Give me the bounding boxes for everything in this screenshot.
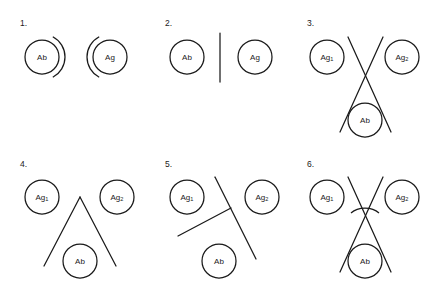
node-sublabel-ag1: 1	[190, 196, 193, 202]
panel-number-label: 2.	[165, 18, 172, 28]
node-ag[interactable]: Ag	[238, 40, 272, 74]
node-label-ab: Ab	[182, 53, 192, 62]
node-label-ab: Ab	[360, 257, 370, 266]
node-ag[interactable]: Ag	[93, 40, 127, 74]
node-ag2[interactable]: Ag2	[385, 40, 419, 74]
bridge-arc	[351, 208, 379, 213]
panel-1: 1.AbAg	[20, 18, 127, 77]
node-label-ag: Ag	[105, 53, 115, 62]
node-sublabel-ag2: 2	[120, 196, 123, 202]
antibody-antigen-diagram: 1.AbAg2.AbAg3.Ag1Ag2Ab4.Ag1Ag2Ab5.Ag1Ag2…	[0, 0, 432, 290]
panel-number-label: 6.	[307, 159, 314, 169]
panels-layer: 1.AbAg2.AbAg3.Ag1Ag2Ab4.Ag1Ag2Ab5.Ag1Ag2…	[20, 18, 419, 278]
node-sublabel-ag1: 1	[45, 196, 48, 202]
node-sublabel-ag2: 2	[405, 56, 408, 62]
figure-root: 1.AbAg2.AbAg3.Ag1Ag2Ab4.Ag1Ag2Ab5.Ag1Ag2…	[0, 0, 432, 290]
panel-4: 4.Ag1Ag2Ab	[20, 159, 134, 278]
panel-6: 6.Ag1Ag2Ab	[307, 159, 419, 278]
panel-number-label: 5.	[165, 159, 172, 169]
panel-5: 5.Ag1Ag2Ab	[165, 159, 279, 278]
node-label-ag: Ag	[250, 53, 260, 62]
node-ag2[interactable]: Ag2	[385, 180, 419, 214]
node-sublabel-ag2: 2	[405, 196, 408, 202]
panel-number-label: 3.	[307, 18, 314, 28]
panel-3: 3.Ag1Ag2Ab	[307, 18, 419, 137]
node-sublabel-ag1: 1	[330, 196, 333, 202]
node-ab[interactable]: Ab	[63, 244, 97, 278]
node-label-ab: Ab	[360, 116, 370, 125]
node-ag1[interactable]: Ag1	[310, 180, 344, 214]
panel-number-label: 4.	[20, 159, 27, 169]
panel-2: 2.AbAg	[165, 18, 272, 82]
node-label-ab: Ab	[37, 53, 47, 62]
panel-number-label: 1.	[20, 18, 27, 28]
node-ab[interactable]: Ab	[170, 40, 204, 74]
node-sublabel-ag2: 2	[265, 196, 268, 202]
node-ag2[interactable]: Ag2	[245, 180, 279, 214]
node-label-ab: Ab	[75, 257, 85, 266]
node-label-ab: Ab	[214, 257, 224, 266]
node-ag1[interactable]: Ag1	[25, 180, 59, 214]
node-ag2[interactable]: Ag2	[100, 180, 134, 214]
node-ag1[interactable]: Ag1	[170, 180, 204, 214]
node-ab[interactable]: Ab	[202, 244, 236, 278]
node-ab[interactable]: Ab	[25, 40, 59, 74]
node-ab[interactable]: Ab	[348, 103, 382, 137]
node-ag1[interactable]: Ag1	[310, 40, 344, 74]
node-sublabel-ag1: 1	[330, 56, 333, 62]
node-ab[interactable]: Ab	[348, 244, 382, 278]
